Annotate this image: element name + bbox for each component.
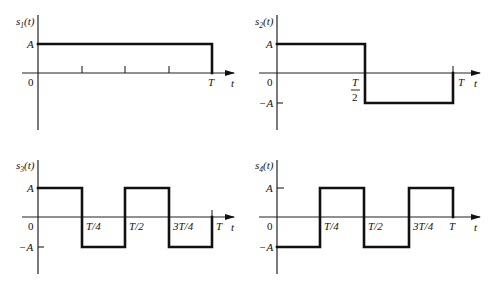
panel-s1: s1(t) A 0 T t <box>16 15 235 130</box>
label-T: T <box>216 220 223 232</box>
label-T: T <box>208 76 215 88</box>
label-A: A <box>26 38 34 50</box>
label-t: t <box>231 221 235 233</box>
label-T-half: T/2 <box>368 220 383 232</box>
label-T-half-den: 2 <box>352 91 358 103</box>
label-T-quarter: T/4 <box>86 220 101 232</box>
ylabel-s1: s1(t) <box>16 15 35 30</box>
ylabel-s2: s2(t) <box>255 15 274 30</box>
label-T: T <box>458 76 465 88</box>
label-T-quarter: T/4 <box>324 220 339 232</box>
label-T-half-num: T <box>352 76 359 88</box>
panel-s2: s2(t) A 0 −A T 2 T t <box>255 15 480 130</box>
label-zero: 0 <box>28 76 34 88</box>
label-zero: 0 <box>28 220 34 232</box>
label-t: t <box>231 77 235 89</box>
signal-waveforms-figure: s1(t) A 0 T t s2(t) A 0 −A T 2 T t s3(t)… <box>0 0 496 288</box>
label-3T-quarter: 3T/4 <box>412 220 434 232</box>
label-neg-A: −A <box>259 97 273 109</box>
panel-s3: s3(t) A 0 −A T/4 T/2 3T/4 T t <box>16 159 235 274</box>
label-t: t <box>474 77 478 89</box>
label-t: t <box>474 221 478 233</box>
label-zero: 0 <box>267 76 273 88</box>
ylabel-s3: s3(t) <box>16 159 35 174</box>
label-3T-quarter: 3T/4 <box>172 220 194 232</box>
label-A: A <box>265 38 273 50</box>
panel-s4: s4(t) A 0 −A T/4 T/2 3T/4 T t <box>255 159 480 274</box>
ylabel-s4: s4(t) <box>255 159 274 174</box>
label-zero: 0 <box>267 220 273 232</box>
label-T: T <box>449 220 456 232</box>
label-neg-A: −A <box>19 241 33 253</box>
label-neg-A: −A <box>259 241 273 253</box>
label-A: A <box>26 182 34 194</box>
label-T-half: T/2 <box>129 220 144 232</box>
label-A: A <box>265 182 273 194</box>
